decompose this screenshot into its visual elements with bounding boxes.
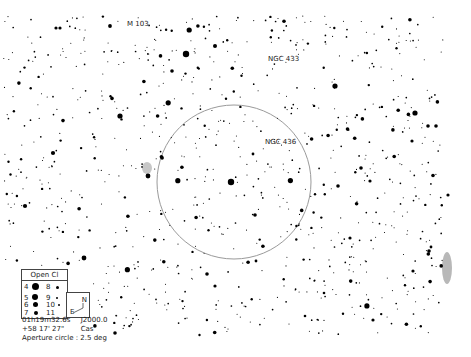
info-dec: +58 17' 27" (22, 325, 64, 333)
magnitude-legend: Open Cl 4 8 5 9 6 10 7 11 (21, 269, 68, 319)
compass-north: N (82, 296, 87, 304)
legend-dot-5 (32, 294, 38, 300)
legend-dot-8 (56, 286, 59, 289)
legend-dot-4 (32, 283, 39, 290)
legend-dot-10 (58, 304, 60, 306)
info-dec-line: +58 17' 27" Cas (22, 325, 93, 333)
compass-east: E (70, 308, 74, 316)
legend-dot-6 (33, 302, 38, 307)
info-aperture: Aperture circle : 2.5 deg (22, 334, 107, 342)
legend-dot-9 (56, 297, 58, 299)
compass-box: N E (66, 292, 90, 318)
legend-mag-4: 4 (24, 283, 28, 291)
label-ngc436[interactable]: NGC 436 (265, 138, 296, 146)
legend-mag-10: 10 (46, 301, 55, 309)
legend-mag-6: 6 (24, 301, 28, 309)
info-ra-line: 01h19m32.6s J2000.0 (22, 316, 107, 324)
legend-title: Open Cl (22, 270, 67, 281)
info-epoch: J2000.0 (81, 316, 108, 324)
info-constellation: Cas (81, 325, 94, 333)
label-m103[interactable]: M 103 (127, 20, 149, 28)
legend-mag-8: 8 (46, 283, 50, 291)
legend-dot-7 (34, 311, 38, 315)
label-ngc433[interactable]: NGC 433 (268, 55, 299, 63)
info-ra: 01h19m32.6s (22, 316, 70, 324)
